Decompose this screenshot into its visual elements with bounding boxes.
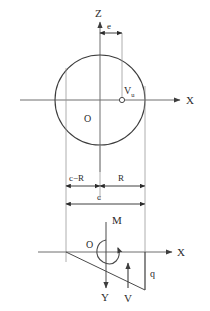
- load-label-subscript: u: [131, 91, 135, 98]
- load-label: Vu: [124, 85, 135, 98]
- dimension-label-c: c: [97, 192, 101, 202]
- axis-z-label: Z: [95, 7, 102, 19]
- moment-label: M: [112, 214, 122, 226]
- axis-y-label-lower: Y: [101, 291, 109, 303]
- axis-x-label-lower: X: [177, 246, 185, 258]
- engineering-diagram-svg: Z X e O Vu c−R R c: [0, 0, 210, 311]
- load-label-q: q: [150, 268, 155, 279]
- origin-label-lower: O: [86, 239, 93, 250]
- center-label-upper: O: [84, 113, 91, 124]
- eccentricity-label: e: [107, 21, 111, 31]
- load-point-marker: [119, 97, 124, 102]
- dimension-label-r: R: [118, 173, 124, 183]
- dimension-label-c-minus-r: c−R: [69, 173, 84, 183]
- axis-x-label-upper: X: [186, 94, 194, 106]
- shear-label: V: [124, 292, 132, 304]
- diagram-root: Z X e O Vu c−R R c: [0, 0, 210, 311]
